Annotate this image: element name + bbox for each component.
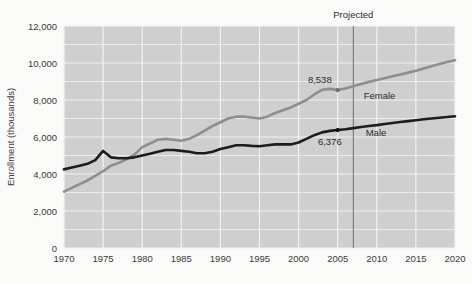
enrollment-line-chart: 12,000 10,000 8,000 6,000 4,000 2,000 0 … <box>0 0 472 284</box>
y-tick-0: 0 <box>52 243 57 254</box>
y-tick-12000: 12,000 <box>28 21 57 32</box>
y-axis-title: Enrollment (thousands) <box>5 88 16 186</box>
female-series-label: Female <box>364 90 396 101</box>
y-tick-2000: 2,000 <box>33 206 57 217</box>
projected-label: Projected <box>333 9 373 20</box>
y-tick-4000: 4,000 <box>33 169 57 180</box>
x-tick-1985: 1985 <box>171 253 192 264</box>
male-series-label: Male <box>366 127 387 138</box>
x-tick-2015: 2015 <box>405 253 426 264</box>
x-tick-1970: 1970 <box>53 253 74 264</box>
x-tick-1980: 1980 <box>132 253 153 264</box>
x-tick-2000: 2000 <box>288 253 309 264</box>
y-tick-8000: 8,000 <box>33 95 57 106</box>
x-tick-2005: 2005 <box>327 253 348 264</box>
female-2005-marker <box>336 88 340 92</box>
male-2005-marker <box>336 128 340 132</box>
x-tick-2020: 2020 <box>444 253 465 264</box>
x-tick-1975: 1975 <box>93 253 114 264</box>
y-tick-6000: 6,000 <box>33 132 57 143</box>
female-value-label: 8,538 <box>308 74 332 85</box>
y-tick-10000: 10,000 <box>28 58 57 69</box>
x-tick-1995: 1995 <box>249 253 270 264</box>
chart-canvas: 12,000 10,000 8,000 6,000 4,000 2,000 0 … <box>0 0 472 284</box>
x-tick-2010: 2010 <box>366 253 387 264</box>
male-value-label: 6,376 <box>318 136 342 147</box>
x-tick-1990: 1990 <box>210 253 231 264</box>
